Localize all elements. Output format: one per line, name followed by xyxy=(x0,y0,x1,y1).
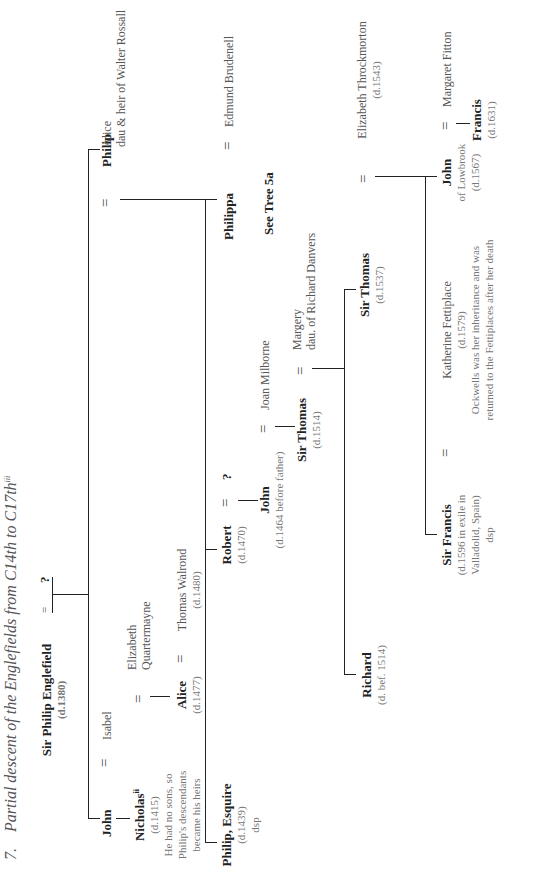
connector xyxy=(205,199,217,200)
person-francis: Francis (d.1631) xyxy=(470,85,498,155)
descent-line xyxy=(275,426,295,427)
sibling-line xyxy=(205,200,206,843)
marriage-sign: = xyxy=(255,425,272,433)
person-nicholas: Nicholasii (d.1415) He had no sons, so P… xyxy=(130,755,203,875)
descent-line xyxy=(120,199,205,200)
person-alice: Alice (d.1477) xyxy=(175,665,203,725)
marriage-sign: = xyxy=(172,655,189,663)
marriage-sign: = xyxy=(219,142,236,150)
descent-line xyxy=(312,368,344,369)
person-richard: Richard (d. bef. 1514) xyxy=(360,625,388,725)
connector xyxy=(344,289,356,290)
sibling-line xyxy=(88,149,89,819)
marriage-line xyxy=(52,577,53,613)
marriage-sign: = xyxy=(355,175,372,183)
spouse-unknown: ? xyxy=(220,474,234,481)
marriage-sign: = xyxy=(292,367,309,375)
person-robert: Robert (d.1470) xyxy=(220,515,248,575)
spouse-unknown: ? xyxy=(38,577,52,584)
connector xyxy=(205,549,217,550)
sibling-line xyxy=(425,177,426,535)
person-sir-thomas-1537: Sir Thomas (d.1537) xyxy=(358,245,386,325)
descent-line xyxy=(238,500,258,501)
descent-line xyxy=(456,123,470,124)
marriage-sign: = xyxy=(130,695,147,703)
spouse-katherine-fettiplace: Katherine Fettiplace (d.1579) Ockwells w… xyxy=(440,225,496,435)
person-john: John xyxy=(100,810,114,837)
marriage-sign: = xyxy=(96,759,113,767)
marriage-sign: = xyxy=(97,199,114,207)
sibling-line xyxy=(344,290,345,675)
person-sir-francis: Sir Francis (d.1596 in exile in Valladol… xyxy=(440,475,496,595)
diagram-title: 7. Partial descent of the Englefields fr… xyxy=(2,476,20,860)
spouse-joan-milborne: Joan Milborne xyxy=(258,340,272,410)
connector xyxy=(344,674,356,675)
marriage-sign: = xyxy=(437,122,454,130)
spouse-edmund-brudenell: Edmund Brudenell xyxy=(222,36,236,127)
marriage-sign: = xyxy=(38,607,50,613)
spouse-thomas-walrond: Thomas Walrond (d.1480) xyxy=(175,535,203,645)
spouse-margery-danvers: Margery dau. of Richard Danvers xyxy=(290,233,318,350)
descent-line xyxy=(375,176,425,177)
descent-line xyxy=(52,594,88,595)
family-tree-diagram: 7. Partial descent of the Englefields fr… xyxy=(0,0,549,875)
connector xyxy=(205,842,217,843)
marriage-sign: = xyxy=(217,499,234,507)
descent-line xyxy=(150,696,170,697)
person-john-1464: John (d.1464 before father) xyxy=(258,445,286,555)
spouse-margaret-fitton: Margaret Fitton xyxy=(440,32,454,107)
spouse-elizabeth-throckmorton: Elizabeth Throckmorton (d.1543) xyxy=(355,0,383,160)
see-tree-5a-link[interactable]: See Tree 5a xyxy=(262,172,276,235)
marriage-sign: = xyxy=(437,449,454,457)
person-philip-esquire: Philip, Esquire (d.1439) dsp xyxy=(220,775,262,875)
spouse-alice-rossall: Alice dau & heir of Walter Rossall xyxy=(100,10,128,147)
spouse-elizabeth-quartermayne: Elizabeth Quartermayne xyxy=(125,601,153,670)
connector xyxy=(425,176,437,177)
spouse-isabel: Isabel xyxy=(100,711,114,740)
person-sir-thomas-1514: Sir Thomas (d.1514) xyxy=(295,380,323,480)
descent-line xyxy=(116,818,130,819)
person-philippa: Philippa xyxy=(222,193,236,240)
connector xyxy=(425,534,437,535)
person-sir-philip: Sir Philip Englefield (d.1380) xyxy=(40,620,68,780)
